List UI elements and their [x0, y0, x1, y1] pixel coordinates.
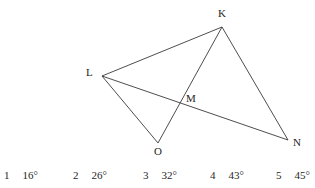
- vertex-label-k: K: [218, 8, 226, 19]
- vertex-label-n: N: [293, 137, 301, 148]
- answer-option-4-value: 43°: [229, 169, 244, 181]
- segment-OK: [158, 27, 222, 143]
- answer-option-2-number: 2: [73, 169, 79, 181]
- geometry-lines: [0, 0, 315, 188]
- segment-LK: [102, 27, 222, 76]
- answer-option-4[interactable]: 4 43°: [210, 165, 244, 185]
- answer-choices-row: 1 16° 2 26° 3 32° 4 43° 5 45°: [0, 165, 315, 188]
- vertex-label-o: O: [154, 146, 162, 157]
- answer-option-2[interactable]: 2 26°: [73, 165, 107, 185]
- answer-option-3-number: 3: [143, 169, 149, 181]
- answer-option-5-number: 5: [276, 169, 282, 181]
- answer-option-5[interactable]: 5 45°: [276, 165, 310, 185]
- answer-option-1-value: 16°: [23, 169, 38, 181]
- answer-option-2-value: 26°: [92, 169, 107, 181]
- answer-option-3[interactable]: 3 32°: [143, 165, 177, 185]
- vertex-label-m: M: [186, 93, 196, 104]
- geometry-figure: K L M N O: [0, 0, 315, 188]
- segment-LN: [102, 76, 288, 140]
- answer-option-4-number: 4: [210, 169, 216, 181]
- segment-KN: [222, 27, 288, 140]
- answer-option-1-number: 1: [4, 169, 10, 181]
- vertex-label-l: L: [86, 67, 93, 78]
- answer-option-3-value: 32°: [162, 169, 177, 181]
- answer-option-5-value: 45°: [295, 169, 310, 181]
- answer-option-1[interactable]: 1 16°: [4, 165, 38, 185]
